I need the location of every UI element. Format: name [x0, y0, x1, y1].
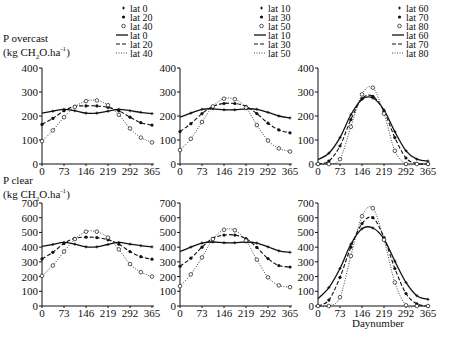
x-tick-label: 292 [398, 165, 415, 177]
plus-marker [223, 241, 226, 244]
dot-marker [371, 216, 374, 219]
plus-marker [107, 243, 110, 246]
series-line-lat-60 [318, 227, 428, 300]
circle-icon [122, 24, 126, 28]
dot-marker [338, 144, 341, 147]
circle-marker [393, 281, 397, 285]
circle-marker [62, 115, 66, 119]
dot-marker [404, 156, 407, 159]
x-tick-label: 73 [335, 165, 347, 177]
dot-icon [122, 15, 125, 18]
series-line-lat-60 [318, 97, 428, 161]
x-tick-label: 219 [100, 165, 117, 177]
circle-marker [40, 274, 44, 278]
y-tick-label: 0 [171, 158, 177, 170]
plus-marker [73, 243, 76, 246]
dot-marker [139, 255, 142, 258]
y-tick-label: 500 [160, 226, 177, 238]
dot-marker [40, 123, 43, 126]
x-tick-label: 146 [78, 307, 95, 319]
circle-marker [316, 162, 320, 166]
y-tick-label: 500 [298, 226, 315, 238]
plus-marker [151, 112, 154, 115]
x-tick-label: 146 [354, 165, 371, 177]
y-tick-label: 200 [22, 271, 39, 283]
dot-marker [51, 251, 54, 254]
x-tick-label: 219 [376, 165, 393, 177]
y-tick-label: 300 [298, 256, 315, 268]
x-tick-label: 146 [216, 307, 233, 319]
y-tick-label: 300 [160, 86, 177, 98]
y-tick-label: 100 [22, 285, 39, 297]
circle-marker [211, 237, 215, 241]
dot-marker [178, 265, 181, 268]
dot-marker [128, 116, 131, 119]
y-tick-label: 100 [160, 134, 177, 146]
circle-marker [189, 273, 193, 277]
bottom-ylabel: P clear (kg CH2O.ha-1) [3, 175, 70, 205]
circle-marker [360, 214, 364, 218]
bottom-ylabel-line2: (kg CH2O.ha-1) [3, 186, 70, 205]
series-line-lat-20 [42, 106, 152, 125]
x-tick-label: 0 [315, 307, 321, 319]
dot-marker [371, 95, 374, 98]
circle-marker [95, 230, 99, 234]
x-axis-label: Daynumber [352, 317, 404, 329]
x-tick-label: 292 [260, 307, 277, 319]
series-line-lat-30 [180, 103, 290, 133]
dot-marker [95, 104, 98, 107]
x-tick-label: 0 [315, 165, 321, 177]
series-line-lat-80 [318, 207, 428, 308]
plus-marker [277, 115, 280, 118]
dot-marker [117, 109, 120, 112]
x-tick-label: 146 [216, 165, 233, 177]
circle-marker [288, 150, 292, 154]
plus-marker [107, 110, 110, 113]
circle-marker [189, 137, 193, 141]
x-tick-label: 219 [100, 307, 117, 319]
dot-marker [288, 265, 291, 268]
dot-marker [117, 243, 120, 246]
y-tick-label: 200 [160, 271, 177, 283]
legend-3: lat 60lat 70lat 80lat 60lat 70lat 80 [392, 3, 429, 59]
x-tick-label: 73 [197, 307, 209, 319]
y-tick-label: 600 [160, 212, 177, 224]
circle-marker [349, 254, 353, 258]
dot-marker [266, 257, 269, 260]
plus-marker [151, 245, 154, 248]
circle-marker [139, 136, 143, 140]
dot-marker [178, 130, 181, 133]
circle-marker [117, 248, 121, 252]
dot-marker [150, 124, 153, 127]
circle-marker [426, 304, 430, 308]
x-tick-label: 0 [39, 307, 45, 319]
plus-marker [139, 111, 142, 114]
dot-marker [404, 292, 407, 295]
x-tick-label: 73 [197, 165, 209, 177]
dot-marker [84, 236, 87, 239]
plus-marker [139, 244, 142, 247]
y-tick-label: 100 [298, 134, 315, 146]
y-tick-label: 300 [22, 86, 39, 98]
circle-marker [73, 237, 77, 241]
x-tick-label: 365 [282, 165, 299, 177]
plus-icon [260, 7, 263, 10]
y-tick-label: 100 [298, 285, 315, 297]
circle-marker [316, 304, 320, 308]
x-tick-label: 292 [122, 307, 139, 319]
dot-marker [393, 267, 396, 270]
dot-marker [288, 131, 291, 134]
circle-marker [360, 93, 364, 97]
circle-marker [84, 230, 88, 234]
y-tick-label: 400 [298, 241, 315, 253]
legend-label: lat 50 [268, 48, 291, 59]
dot-marker [360, 222, 363, 225]
circle-marker [382, 238, 386, 242]
dot-marker [128, 250, 131, 253]
x-tick-label: 219 [238, 307, 255, 319]
circle-marker [62, 250, 66, 254]
y-tick-label: 300 [22, 256, 39, 268]
legend-label: lat 40 [130, 48, 153, 59]
circle-marker [266, 139, 270, 143]
circle-marker [40, 139, 44, 143]
